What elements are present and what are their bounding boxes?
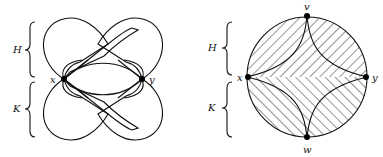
vertex-y-left [139, 76, 145, 82]
label-x-left: x [50, 74, 56, 85]
figure-canvas: H K x y H K [0, 0, 383, 157]
vertex-x-left [61, 76, 67, 82]
label-h-right: H [207, 42, 217, 53]
label-h-left: H [12, 44, 22, 55]
label-v: v [304, 1, 310, 12]
label-k-left: K [12, 103, 21, 114]
label-w: w [303, 144, 312, 155]
brace-h-right [222, 22, 232, 75]
label-y-left: y [148, 74, 155, 85]
vertex-v [304, 13, 310, 19]
left-diagram: H K x y [12, 18, 163, 140]
brace-k-right [222, 82, 232, 137]
band-upper-cross [64, 28, 138, 79]
central-lens [64, 63, 142, 95]
label-x-right: x [237, 72, 243, 83]
lower-hatch [247, 77, 367, 137]
label-k-right: K [207, 102, 216, 113]
vertex-x-right [245, 74, 251, 80]
vertex-w [304, 134, 310, 140]
right-diagram: H K v w x y [207, 1, 378, 155]
band-lower-cross [64, 79, 138, 130]
vertex-y-right [363, 74, 369, 80]
brace-h-left [25, 22, 35, 77]
brace-k-left [25, 82, 35, 137]
rays [64, 60, 142, 98]
label-y-right: y [371, 72, 378, 83]
